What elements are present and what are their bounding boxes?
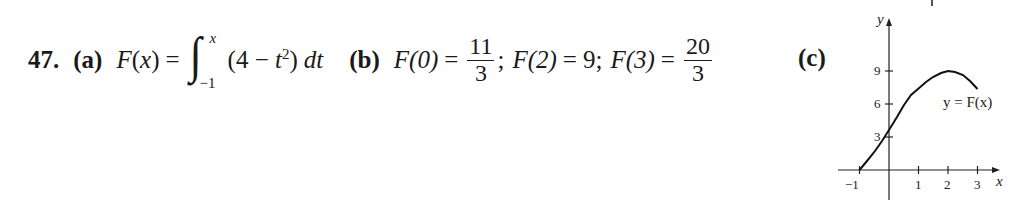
y-tick-label: 3 [874, 129, 881, 144]
function-name: F [116, 46, 131, 74]
x-tick-label: 1 [915, 177, 922, 192]
integral-lower-limit: −1 [200, 75, 216, 92]
integral-sign: ∫ x −1 [188, 30, 226, 90]
f3-lhs: F(3) [610, 46, 654, 74]
x-axis-label: x [995, 173, 1003, 189]
f0-lhs: F(0) [394, 46, 438, 74]
f2-lhs: F(2) [512, 46, 556, 74]
curve-F-poly [860, 71, 978, 170]
x-tick-label: 2 [944, 177, 951, 192]
graph-of-F: −1 1 2 3 3 6 9 x y y = F(x) [820, 0, 1016, 200]
integrand: (4 − t2) [228, 46, 298, 74]
part-a-label: (a) [73, 46, 102, 74]
f3-value: 203 [684, 34, 712, 85]
answer-line: 47. (a) F (x) = ∫ x −1 (4 − t2) dt (b) F… [28, 30, 715, 90]
integral-upper-limit: x [210, 30, 217, 47]
x-tick-label: −1 [845, 177, 859, 192]
f2-value: 9 [583, 46, 596, 74]
y-axis-label: y [875, 11, 884, 27]
plot-svg: −1 1 2 3 3 6 9 x y y = F(x) [820, 0, 1016, 200]
x-tick-label: 3 [974, 177, 981, 192]
y-axis-arrow-icon [886, 18, 892, 26]
problem-number: 47. [28, 46, 59, 74]
y-tick-label: 9 [874, 63, 881, 78]
part-b-label: (b) [349, 46, 380, 74]
curve-label: y = F(x) [943, 94, 992, 111]
f0-value: 113 [467, 34, 494, 85]
equals-sign: = [165, 46, 179, 74]
function-arg: (x) [132, 46, 160, 74]
y-tick-label: 6 [874, 96, 881, 111]
differential: dt [304, 46, 323, 74]
